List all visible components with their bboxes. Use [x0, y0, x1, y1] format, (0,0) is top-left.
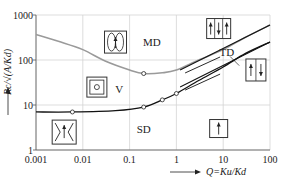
- data-marker: [142, 105, 146, 109]
- data-marker: [70, 110, 74, 114]
- series-line-md: [36, 25, 270, 74]
- y-tick-label: 1000: [13, 10, 33, 21]
- md-stripe-icon: [207, 19, 231, 39]
- data-marker: [174, 92, 178, 96]
- region-label-v: V: [115, 83, 123, 95]
- series-line-sd: [36, 42, 270, 112]
- chart: 0.0010.010.11101001101001000Q=Ku/KdRc/√(…: [0, 0, 281, 179]
- x-tick-label: 10: [218, 154, 228, 165]
- x-axis-arrowhead: [195, 170, 201, 175]
- y-tick-label: 100: [18, 55, 33, 66]
- x-tick-label: 100: [263, 154, 278, 165]
- md-domain-icon: [105, 31, 127, 53]
- td-icon: [246, 59, 266, 81]
- x-tick-label: 0.01: [74, 154, 92, 165]
- vortex-icon: [87, 77, 107, 97]
- x-tick-label: 0.001: [25, 154, 48, 165]
- sd-icon: [210, 120, 228, 138]
- region-label-td: TD: [220, 46, 235, 58]
- x-axis-label: Q=Ku/Kd: [206, 166, 247, 177]
- sd-flower-icon: [52, 120, 76, 144]
- region-label-md: MD: [143, 36, 161, 48]
- y-tick-label: 1: [28, 145, 33, 156]
- x-tick-label: 1: [174, 154, 179, 165]
- x-tick-label: 0.1: [123, 154, 136, 165]
- y-tick-label: 10: [23, 100, 33, 111]
- data-marker: [160, 98, 164, 102]
- region-label-sd: SD: [137, 123, 151, 135]
- labels: 0.0010.010.11101001101001000Q=Ku/KdRc/√(…: [2, 10, 278, 178]
- data-marker: [142, 72, 146, 76]
